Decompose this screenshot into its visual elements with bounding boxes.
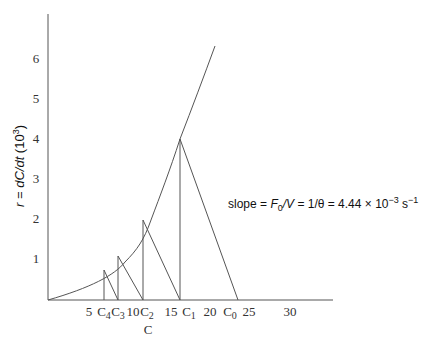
c1-label: C1	[182, 304, 196, 321]
operating-line-c0-c1	[180, 139, 238, 300]
y-tick-6: 6	[33, 51, 40, 66]
chart-svg: 6 5 4 3 2 1 r = dC/dt (103) 5 C4 C3 10 C…	[0, 0, 421, 348]
y-axis-title: r = dC/dt (103)	[11, 125, 27, 207]
c3-label: C3	[111, 304, 125, 321]
x-tick-30: 30	[284, 304, 297, 319]
svg-text:r = dC/dt (103): r = dC/dt (103)	[11, 125, 27, 207]
x-axis-title: C	[144, 322, 153, 337]
x-tick-25: 25	[243, 304, 256, 319]
x-tick-10: 10	[127, 304, 140, 319]
x-tick-20: 20	[204, 304, 217, 319]
y-tick-2: 2	[33, 211, 40, 226]
slope-annotation: slope = F0/V = 1/θ = 4.44 × 10−3 s−1	[228, 195, 418, 213]
x-tick-15: 15	[165, 304, 178, 319]
y-tick-1: 1	[33, 251, 40, 266]
y-tick-5: 5	[33, 91, 40, 106]
y-tick-4: 4	[33, 131, 40, 146]
rate-curve-smooth	[48, 46, 215, 300]
c4-label: C4	[97, 304, 111, 321]
rate-curve	[48, 46, 215, 300]
c2-label: C2	[140, 304, 154, 321]
y-tick-3: 3	[33, 171, 40, 186]
c0-label: C0	[223, 304, 237, 321]
operating-line-c1-c2	[143, 220, 180, 300]
operating-line-c2-c3	[118, 256, 143, 300]
x-tick-5: 5	[86, 304, 93, 319]
